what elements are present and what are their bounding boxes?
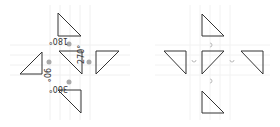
rotation-diagram-left: 180° 90° 270° 360° bbox=[0, 0, 140, 127]
triangle-top bbox=[202, 14, 224, 36]
triangle-left bbox=[164, 51, 186, 74]
arc-marker-left bbox=[192, 60, 196, 62]
left-diagram-canvas: 180° 90° 270° 360° bbox=[0, 0, 140, 127]
triangle-center-right bbox=[96, 51, 119, 74]
label-top: 180° bbox=[49, 36, 68, 45]
rotation-diagram-right bbox=[140, 0, 280, 127]
pivot-dot-left bbox=[47, 60, 52, 65]
pivot-dot-bottom bbox=[67, 80, 72, 85]
arc-marker-right bbox=[230, 60, 234, 62]
triangle-right bbox=[241, 51, 263, 74]
label-right: 270° bbox=[77, 45, 86, 64]
right-diagram-canvas bbox=[140, 0, 280, 127]
pivot-dot-right bbox=[87, 60, 92, 65]
triangle-bottom bbox=[202, 91, 224, 113]
triangle-center bbox=[202, 51, 224, 74]
label-bottom: 360° bbox=[49, 84, 68, 93]
label-left: 90° bbox=[42, 68, 51, 82]
